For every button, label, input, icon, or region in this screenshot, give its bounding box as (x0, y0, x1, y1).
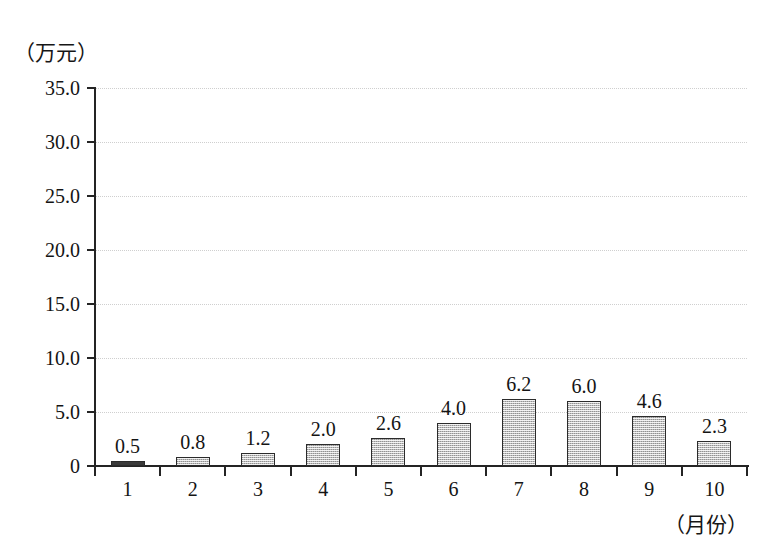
y-tick-label: 15.0 (0, 294, 80, 314)
y-tick-label: 10.0 (0, 348, 80, 368)
x-tick-label: 1 (108, 478, 148, 500)
y-tick-mark (87, 357, 95, 359)
x-tick-mark (420, 467, 422, 476)
bar-value-label: 4.6 (622, 391, 676, 411)
bar-value-label: 6.2 (492, 374, 546, 394)
bar-value-label: 0.8 (166, 432, 220, 452)
y-tick-label: 20.0 (0, 240, 80, 260)
y-tick-mark (87, 141, 95, 143)
y-tick-label: 25.0 (0, 186, 80, 206)
bar-chart: （万元） 05.010.015.020.025.030.035.0 0.50.8… (0, 0, 779, 556)
y-tick-mark (87, 249, 95, 251)
y-tick-mark (87, 411, 95, 413)
x-tick-mark (746, 467, 748, 476)
x-tick-label: 4 (303, 478, 343, 500)
y-tick-label: 30.0 (0, 132, 80, 152)
gridline (95, 412, 747, 413)
y-tick-label: 0 (0, 456, 80, 476)
y-tick-label: 35.0 (0, 78, 80, 98)
x-tick-mark (94, 467, 96, 476)
gridline (95, 196, 747, 197)
bar-value-label: 1.2 (231, 428, 285, 448)
gridline (95, 304, 747, 305)
x-tick-mark (355, 467, 357, 476)
bar-value-label: 4.0 (427, 398, 481, 418)
gridline (95, 358, 747, 359)
bar (176, 457, 210, 466)
gridline (95, 88, 747, 89)
y-axis-line (94, 87, 96, 467)
bar (567, 401, 601, 466)
gridline (95, 250, 747, 251)
x-tick-label: 8 (564, 478, 604, 500)
bar-value-label: 2.3 (687, 416, 741, 436)
x-tick-mark (550, 467, 552, 476)
x-tick-mark (681, 467, 683, 476)
bar (371, 438, 405, 466)
gridline (95, 142, 747, 143)
x-tick-mark (224, 467, 226, 476)
y-tick-mark (87, 303, 95, 305)
x-tick-label: 2 (173, 478, 213, 500)
bar (697, 441, 731, 466)
x-tick-label: 6 (434, 478, 474, 500)
x-tick-label: 10 (694, 478, 734, 500)
x-tick-mark (290, 467, 292, 476)
x-tick-label: 9 (629, 478, 669, 500)
bar-value-label: 6.0 (557, 376, 611, 396)
y-tick-mark (87, 195, 95, 197)
bar (437, 423, 471, 466)
x-tick-mark (485, 467, 487, 476)
bar-value-label: 0.5 (101, 436, 155, 456)
bar (241, 453, 275, 466)
bar-value-label: 2.0 (296, 419, 350, 439)
x-axis-unit-label: （月份） (664, 508, 748, 538)
x-tick-label: 5 (368, 478, 408, 500)
x-tick-label: 3 (238, 478, 278, 500)
x-tick-mark (159, 467, 161, 476)
x-tick-mark (616, 467, 618, 476)
bar (111, 461, 145, 466)
y-tick-label: 5.0 (0, 402, 80, 422)
y-axis-unit-label: （万元） (14, 36, 98, 66)
bar (306, 444, 340, 466)
bar (502, 399, 536, 466)
y-tick-mark (87, 87, 95, 89)
x-tick-label: 7 (499, 478, 539, 500)
bar-value-label: 2.6 (361, 413, 415, 433)
bar (632, 416, 666, 466)
